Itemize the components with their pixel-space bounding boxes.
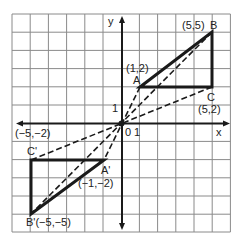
origin-point [119, 121, 125, 127]
label-b-prime: B'(−5,−5) [26, 216, 71, 228]
x-axis-left-arrow-icon [16, 121, 23, 127]
label-c: C [207, 91, 215, 103]
label-c-coord: (5,2) [198, 103, 221, 115]
label-a-prime: A' [101, 164, 110, 176]
y-tick-label: 1 [112, 102, 118, 114]
x-axis-right-arrow-icon [223, 121, 230, 127]
label-c-prime-coord: (−5,−2) [15, 127, 50, 139]
label-b-coord: (5,5) [182, 19, 205, 31]
label-b: B [210, 19, 217, 31]
label-a-coord: (1,2) [126, 62, 149, 74]
y-axis-label: y [108, 15, 114, 27]
y-axis-down-arrow-icon [119, 223, 125, 230]
label-a: A [133, 74, 141, 86]
coordinate-plane-diagram: y x 0 1 1 (5,5) B (1,2) A C (5,2) (−5,−2… [0, 0, 242, 246]
label-a-prime-coord: (−1,−2) [78, 177, 113, 189]
x-tick-label: 1 [134, 126, 140, 138]
label-c-prime: C' [27, 145, 37, 157]
origin-label: 0 [125, 126, 131, 138]
x-axis-label: x [216, 126, 222, 138]
y-axis-up-arrow-icon [119, 16, 125, 23]
